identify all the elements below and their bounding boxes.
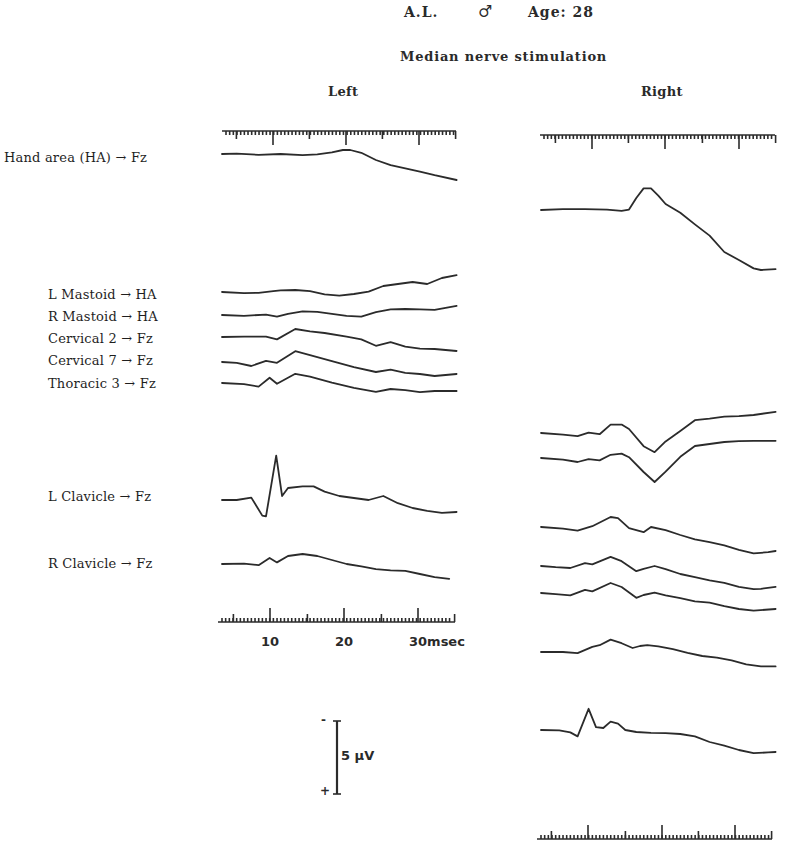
left-bottom-time-axis <box>218 608 455 622</box>
right-bottom-time-ruler <box>537 825 772 839</box>
left-top-time-ruler <box>222 131 456 145</box>
voltage-scale-bar <box>333 721 341 794</box>
right-trace-3 <box>541 441 776 482</box>
right-panel-traces <box>541 188 776 753</box>
left-trace-3 <box>222 306 457 317</box>
left-trace-5 <box>222 351 457 376</box>
evoked-potential-plot <box>0 0 791 862</box>
right-trace-4 <box>541 517 776 553</box>
right-trace-7 <box>541 640 776 667</box>
left-trace-2 <box>222 275 457 295</box>
right-trace-2 <box>541 412 776 452</box>
left-trace-1 <box>222 150 457 180</box>
left-panel-traces <box>222 150 457 579</box>
left-trace-8 <box>222 554 449 579</box>
right-top-time-ruler <box>540 135 776 149</box>
left-trace-4 <box>222 329 457 351</box>
right-trace-1 <box>541 188 776 270</box>
left-trace-6 <box>222 374 457 392</box>
right-trace-5 <box>541 557 776 589</box>
right-trace-8 <box>541 709 776 753</box>
left-trace-7 <box>222 456 457 517</box>
